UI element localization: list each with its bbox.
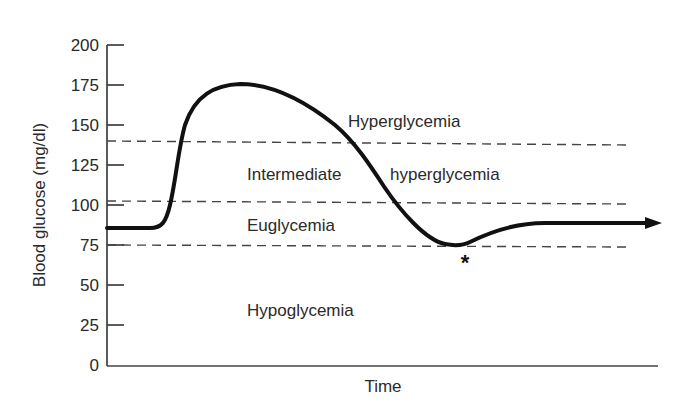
blood-glucose-chart: 0 25 50 75 100 125 150 175 200 Blood glu… xyxy=(0,0,680,418)
y-tick-label: 100 xyxy=(71,196,99,215)
y-tick-label: 25 xyxy=(80,316,99,335)
y-tick-label: 0 xyxy=(90,356,99,375)
y-tick-label: 75 xyxy=(80,236,99,255)
y-axis-title: Blood glucose (mg/dl) xyxy=(30,123,49,287)
x-axis-title: Time xyxy=(364,377,401,396)
nadir-asterisk: * xyxy=(461,250,470,275)
region-label-hyperglycemia: Hyperglycemia xyxy=(348,112,461,131)
y-tick-label: 150 xyxy=(71,116,99,135)
threshold-line-hypo xyxy=(107,245,628,247)
y-ticks xyxy=(107,45,124,325)
region-label-intermediate-2: hyperglycemia xyxy=(390,165,500,184)
threshold-lines xyxy=(107,141,628,247)
y-tick-label: 125 xyxy=(71,156,99,175)
glucose-curve xyxy=(107,84,650,245)
arrow-head-icon xyxy=(645,217,662,229)
region-label-euglycemia: Euglycemia xyxy=(247,216,335,235)
y-tick-label: 175 xyxy=(71,76,99,95)
region-label-intermediate: Intermediate xyxy=(247,165,342,184)
y-tick-label: 50 xyxy=(80,276,99,295)
threshold-line-hyper xyxy=(107,141,628,145)
region-label-hypoglycemia: Hypoglycemia xyxy=(247,301,354,320)
threshold-line-intermediate xyxy=(107,201,628,204)
y-tick-label: 200 xyxy=(71,36,99,55)
y-tick-labels: 0 25 50 75 100 125 150 175 200 xyxy=(71,36,99,375)
